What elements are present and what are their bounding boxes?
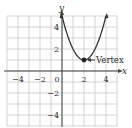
vertex-dot: [82, 58, 87, 63]
y-tick-label: −4: [47, 111, 59, 120]
x-tick-label: 0: [54, 75, 59, 84]
y-tick-label: 4: [54, 23, 59, 32]
annotations: Vertex: [82, 55, 124, 65]
axes: [4, 10, 123, 127]
x-tick-label: −4: [12, 75, 24, 84]
x-tick-label: 2: [81, 75, 86, 84]
x-axis-label: x: [122, 66, 127, 76]
y-tick-label: 2: [54, 45, 59, 54]
y-tick-label: −2: [47, 89, 59, 98]
vertex-label: Vertex: [95, 55, 124, 65]
x-tick-label: 4: [103, 75, 108, 84]
y-axis-label: y: [58, 3, 65, 13]
parabola-chart: −4−202442−2−4 Vertex x y: [0, 0, 132, 128]
x-tick-label: −2: [34, 75, 46, 84]
